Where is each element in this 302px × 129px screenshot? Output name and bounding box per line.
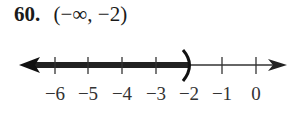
number-line: −6 −5 −4 −3 −2 −1 0 bbox=[0, 0, 302, 129]
tick-label: −5 bbox=[78, 83, 98, 104]
tick-label: −4 bbox=[112, 83, 133, 104]
tick-label: −6 bbox=[45, 83, 65, 104]
tick-label: 0 bbox=[251, 83, 261, 104]
tick-label: −1 bbox=[212, 83, 232, 104]
tick-label: −2 bbox=[179, 83, 199, 104]
shaded-ray bbox=[30, 62, 188, 68]
tick-label: −3 bbox=[146, 83, 166, 104]
